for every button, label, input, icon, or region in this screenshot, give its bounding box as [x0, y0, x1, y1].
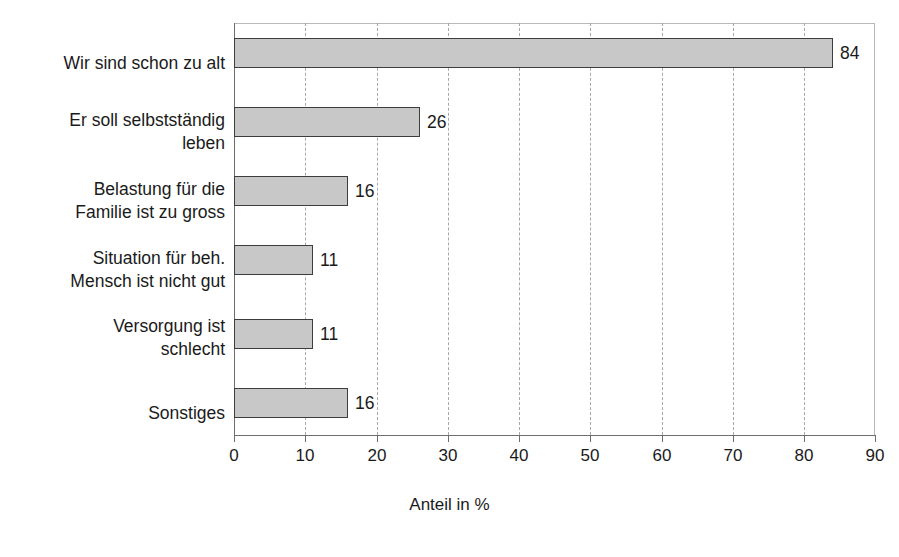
bar-1	[234, 107, 420, 137]
xtick-mark-80	[804, 436, 805, 442]
category-label-5: Sonstiges	[0, 402, 225, 425]
category-label-4: Versorgung ist schlecht	[0, 315, 225, 361]
bar-4	[234, 319, 313, 349]
xtick-label-30: 30	[439, 446, 458, 466]
xtick-label-70: 70	[724, 446, 743, 466]
gridline-80	[804, 23, 805, 435]
bar-value-4: 11	[320, 319, 338, 349]
plot-area	[234, 23, 875, 435]
gridline-30	[448, 23, 449, 435]
xtick-label-90: 90	[866, 446, 885, 466]
bar-chart: Wir sind schon zu alt Er soll selbststän…	[0, 0, 899, 557]
bar-value-5: 16	[355, 388, 374, 418]
gridline-70	[733, 23, 734, 435]
xtick-label-10: 10	[296, 446, 315, 466]
xtick-label-40: 40	[510, 446, 529, 466]
gridline-40	[519, 23, 520, 435]
xtick-mark-60	[662, 436, 663, 442]
xtick-mark-70	[733, 436, 734, 442]
xtick-mark-90	[875, 436, 876, 442]
xtick-mark-0	[234, 436, 235, 442]
xtick-label-50: 50	[581, 446, 600, 466]
bar-value-1: 26	[427, 107, 446, 137]
bar-3	[234, 245, 313, 275]
y-axis-line	[234, 23, 235, 436]
gridline-20	[377, 23, 378, 435]
category-label-2: Belastung für die Familie ist zu gross	[0, 178, 225, 224]
gridline-60	[662, 23, 663, 435]
gridline-50	[590, 23, 591, 435]
bar-2	[234, 176, 348, 206]
category-label-1: Er soll selbstständig leben	[0, 109, 225, 155]
xtick-label-80: 80	[795, 446, 814, 466]
bar-value-2: 16	[355, 176, 374, 206]
bar-0	[234, 38, 833, 68]
xtick-label-0: 0	[229, 446, 238, 466]
category-axis-labels: Wir sind schon zu alt Er soll selbststän…	[0, 23, 225, 435]
category-label-0: Wir sind schon zu alt	[0, 52, 225, 75]
xtick-mark-50	[590, 436, 591, 442]
x-axis-line	[234, 435, 876, 436]
bar-value-3: 11	[320, 245, 338, 275]
xtick-mark-40	[519, 436, 520, 442]
xtick-mark-20	[377, 436, 378, 442]
category-label-3: Situation für beh. Mensch ist nicht gut	[0, 247, 225, 293]
bar-5	[234, 388, 348, 418]
xtick-mark-10	[305, 436, 306, 442]
gridline-10	[305, 23, 306, 435]
x-axis-title: Anteil in %	[0, 495, 899, 515]
bar-value-0: 84	[840, 38, 859, 68]
xtick-label-60: 60	[653, 446, 672, 466]
xtick-mark-30	[448, 436, 449, 442]
xtick-label-20: 20	[368, 446, 387, 466]
